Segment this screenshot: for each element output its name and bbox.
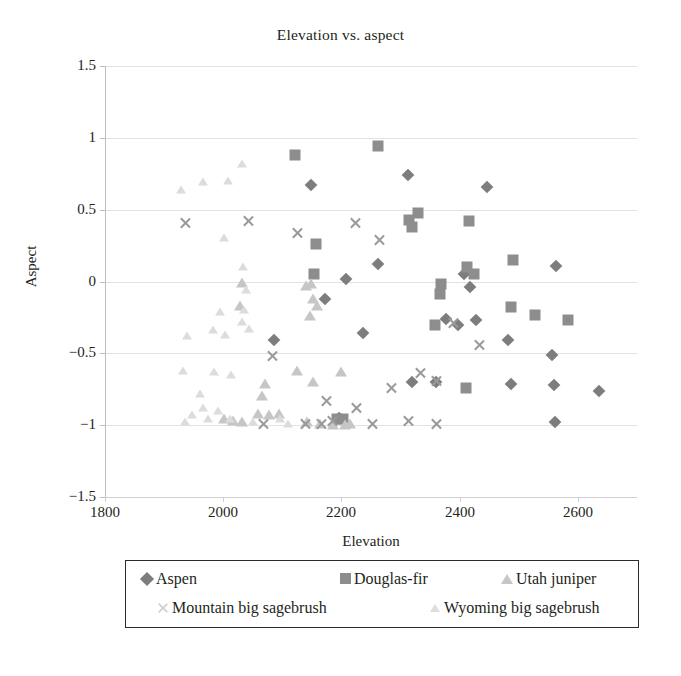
data-point bbox=[366, 417, 379, 430]
data-point bbox=[548, 379, 561, 392]
data-point bbox=[307, 377, 319, 387]
data-point bbox=[463, 216, 474, 227]
data-point bbox=[248, 418, 258, 426]
data-point bbox=[236, 417, 248, 427]
data-point bbox=[198, 178, 208, 186]
data-point bbox=[481, 180, 494, 193]
data-point bbox=[473, 338, 486, 351]
data-point bbox=[304, 310, 316, 320]
data-point bbox=[275, 415, 285, 423]
data-point bbox=[401, 169, 414, 182]
data-point bbox=[308, 269, 319, 280]
data-point bbox=[339, 272, 352, 285]
data-point bbox=[179, 216, 192, 229]
data-point bbox=[562, 315, 573, 326]
data-point bbox=[335, 367, 347, 377]
data-point bbox=[327, 420, 339, 430]
data-point bbox=[268, 334, 281, 347]
data-point bbox=[198, 404, 208, 412]
data-point bbox=[220, 330, 230, 338]
data-point bbox=[413, 207, 424, 218]
data-point bbox=[319, 292, 332, 305]
data-point bbox=[372, 258, 385, 271]
data-point bbox=[266, 350, 279, 363]
data-point bbox=[215, 307, 225, 315]
data-point bbox=[226, 370, 236, 378]
data-point bbox=[429, 319, 440, 330]
data-point bbox=[502, 334, 515, 347]
data-point bbox=[180, 418, 190, 426]
data-point bbox=[314, 418, 326, 428]
data-point bbox=[195, 389, 205, 397]
data-point bbox=[320, 394, 333, 407]
data-point bbox=[178, 366, 188, 374]
data-point bbox=[311, 300, 323, 310]
data-point bbox=[225, 415, 235, 423]
data-point bbox=[505, 377, 518, 390]
data-point bbox=[203, 415, 213, 423]
data-point bbox=[273, 408, 285, 418]
data-point bbox=[357, 327, 370, 340]
data-point bbox=[430, 417, 443, 430]
data-point bbox=[349, 216, 362, 229]
data-point bbox=[414, 367, 427, 380]
data-point bbox=[338, 414, 349, 425]
data-point bbox=[406, 376, 419, 389]
data-point bbox=[373, 233, 386, 246]
data-point bbox=[300, 280, 312, 290]
data-point bbox=[301, 417, 313, 427]
data-point bbox=[289, 150, 300, 161]
data-point bbox=[315, 417, 328, 430]
data-point bbox=[234, 300, 246, 310]
data-point bbox=[372, 141, 383, 152]
data-point bbox=[187, 411, 197, 419]
data-point bbox=[508, 254, 519, 265]
data-point bbox=[259, 378, 271, 388]
data-point bbox=[339, 420, 351, 430]
data-point bbox=[546, 348, 559, 361]
data-point bbox=[208, 326, 218, 334]
data-point bbox=[430, 376, 443, 389]
data-point bbox=[326, 414, 339, 427]
data-point bbox=[548, 416, 561, 429]
data-point bbox=[434, 289, 445, 300]
data-point bbox=[252, 408, 264, 418]
data-point bbox=[404, 214, 415, 225]
data-point bbox=[299, 417, 312, 430]
scatter-plot-figure: Elevation vs. aspect Aspect Elevation 1.… bbox=[0, 0, 681, 676]
data-point bbox=[237, 159, 247, 167]
data-point bbox=[462, 262, 473, 273]
data-point bbox=[385, 381, 398, 394]
data-point bbox=[461, 382, 472, 393]
data-point bbox=[436, 279, 447, 290]
data-point bbox=[463, 281, 476, 294]
data-point bbox=[213, 406, 223, 414]
data-point bbox=[219, 234, 229, 242]
data-point bbox=[469, 269, 480, 280]
data-point bbox=[529, 309, 540, 320]
data-point bbox=[209, 368, 219, 376]
data-point bbox=[402, 414, 415, 427]
data-point bbox=[263, 410, 275, 420]
data-point bbox=[218, 414, 230, 424]
data-point bbox=[239, 306, 249, 314]
data-point bbox=[241, 286, 251, 294]
data-point bbox=[407, 221, 418, 232]
data-point bbox=[506, 302, 517, 313]
data-point bbox=[307, 293, 319, 303]
data-point bbox=[238, 263, 248, 271]
data-point bbox=[176, 185, 186, 193]
data-point bbox=[227, 415, 239, 425]
data-point bbox=[182, 332, 192, 340]
data-point bbox=[344, 418, 356, 428]
data-point bbox=[242, 215, 255, 228]
data-point bbox=[291, 226, 304, 239]
data-point bbox=[430, 374, 443, 387]
data-point bbox=[469, 314, 482, 327]
data-point bbox=[223, 177, 233, 185]
data-point bbox=[331, 414, 342, 425]
data-point bbox=[304, 179, 317, 192]
data-point bbox=[447, 317, 460, 330]
data-point bbox=[593, 384, 606, 397]
data-point bbox=[305, 279, 317, 289]
